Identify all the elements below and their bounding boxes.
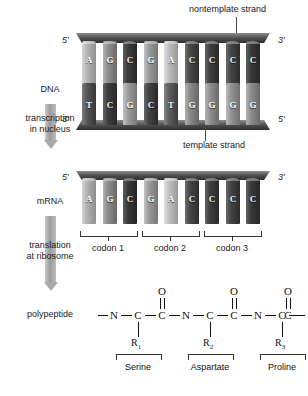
mrna-base-6: C (185, 194, 199, 204)
mrna-base-rod-4: G (144, 178, 158, 224)
mrna-base-rod-1: A (82, 178, 96, 224)
codon-label-2: codon 2 (148, 243, 192, 254)
mrna-base-rod-5: A (164, 178, 178, 224)
mrna-left-prime: 5′ (62, 172, 69, 182)
dna-base-rod-bottom-3: G (123, 83, 137, 125)
stage-label-mrna: mRNA (22, 196, 78, 207)
residue-2-oxygen: O (228, 285, 240, 297)
dna-top-base-1: A (82, 55, 96, 65)
dna-top-base-8: C (226, 55, 240, 65)
translation-label-line1: translation (6, 240, 94, 251)
template-strand-label: template strand (183, 140, 245, 151)
dna-base-rod-top-1: A (82, 41, 96, 87)
codon-bracket-3 (204, 231, 262, 237)
dna-right-bottom-prime: 5′ (278, 114, 285, 124)
residue-2-r-group: R2 (203, 337, 213, 351)
mrna-base-rod-9: C (246, 178, 260, 224)
dna-base-rod-bottom-4: C (144, 83, 158, 125)
dna-base-rod-bottom-6: G (185, 83, 199, 125)
dna-top-base-4: G (144, 55, 158, 65)
nontemplate-strand-label: nontemplate strand (189, 4, 266, 15)
dna-base-rod-top-9: C (246, 41, 260, 87)
mrna-base-1: A (82, 194, 96, 204)
dna-base-rod-bottom-9: G (246, 83, 260, 125)
dna-top-base-5: A (164, 55, 178, 65)
residue-1-ca-co-bond (145, 315, 156, 316)
stage-label-dna: DNA (22, 84, 78, 95)
dna-top-base-6: C (185, 55, 199, 65)
residue-3-oxygen: O (282, 285, 294, 297)
residue-3-nitrogen: N (252, 309, 264, 321)
mrna-base-9: C (246, 194, 260, 204)
residue-1-r-letter: R (131, 337, 138, 348)
dna-base-rod-bottom-5: T (164, 83, 178, 125)
dna-bottom-base-6: G (185, 100, 199, 110)
transcription-label-line1: transcription (6, 113, 94, 124)
dna-bottom-base-4: C (144, 100, 158, 110)
codon-tick-2 (170, 236, 171, 241)
mrna-base-rod-7: C (205, 178, 219, 224)
residue-1-carbonyl-carbon: C (156, 309, 168, 321)
residue-1-n-ca-bond (121, 315, 132, 316)
codon-label-3: codon 3 (210, 243, 254, 254)
residue-3-carbonyl-double-bond-a (286, 298, 287, 309)
dna-base-rod-top-6: C (185, 41, 199, 87)
residue-1-bracket (116, 354, 162, 360)
dna-bottom-base-1: T (82, 100, 96, 110)
dna-base-rod-bottom-7: G (205, 83, 219, 125)
dna-top-base-3: C (123, 55, 137, 65)
codon-bracket-1 (80, 231, 138, 237)
residue-2-alpha-carbon: C (204, 309, 216, 321)
mrna-base-8: C (226, 194, 240, 204)
residue-3-carbonyl-carbon: C (282, 309, 294, 321)
mrna-strand: A G C G A C C C C (76, 171, 270, 227)
residue-3-n-ca-bond (265, 315, 276, 316)
dna-base-rod-top-4: G (144, 41, 158, 87)
dna-top-base-2: G (103, 55, 117, 65)
dna-base-rod-top-3: C (123, 41, 137, 87)
dna-bottom-base-5: T (164, 100, 178, 110)
polypeptide-structure: N C C O R1 Serine N C C O R2 Aspartate N… (96, 283, 308, 396)
residue-1-nitrogen: N (108, 309, 120, 321)
mrna-base-4: G (144, 194, 158, 204)
residue-3-carbonyl-double-bond-b (290, 298, 291, 309)
dna-duplex: A G C G A C C C C T C G C T G G G G (76, 33, 270, 130)
residue-1-r-group: R1 (131, 337, 141, 351)
peptide-bond-2 (241, 315, 252, 316)
codon-tick-1 (108, 236, 109, 241)
residue-2-carbonyl-double-bond-a (232, 298, 233, 309)
mrna-base-rod-6: C (185, 178, 199, 224)
mrna-base-rod-3: C (123, 178, 137, 224)
dna-base-rod-bottom-2: C (103, 83, 117, 125)
dna-bottom-base-9: G (246, 100, 260, 110)
residue-3-amino-acid-name: Proline (248, 362, 308, 372)
chain-end-bond (295, 315, 305, 316)
mrna-right-prime: 3′ (278, 172, 285, 182)
residue-2-r-index: 2 (210, 343, 214, 351)
mrna-base-7: C (205, 194, 219, 204)
residue-2-r-letter: R (203, 337, 210, 348)
mrna-base-rod-2: G (103, 178, 117, 224)
diagram-canvas: nontemplate strand A G C G A C C C C T C… (0, 0, 308, 396)
residue-2-nitrogen: N (180, 309, 192, 321)
mrna-base-3: C (123, 194, 137, 204)
residue-3-r-group: R3 (275, 337, 285, 351)
dna-top-base-9: C (246, 55, 260, 65)
dna-bottom-base-2: C (103, 100, 117, 110)
residue-3-bracket (260, 354, 306, 360)
dna-base-rod-top-2: G (103, 41, 117, 87)
residue-2-bracket (188, 354, 234, 360)
peptide-bond-1 (169, 315, 180, 316)
dna-base-rod-top-5: A (164, 41, 178, 87)
mrna-base-rod-8: C (226, 178, 240, 224)
dna-base-rod-bottom-8: G (226, 83, 240, 125)
dna-bottom-base-8: G (226, 100, 240, 110)
mrna-base-2: G (103, 194, 117, 204)
dna-base-rod-top-7: C (205, 41, 219, 87)
dna-bottom-base-7: G (205, 100, 219, 110)
residue-2-ca-co-bond (217, 315, 228, 316)
translation-label-line2: at ribosome (6, 251, 94, 262)
residue-2-amino-acid-name: Aspartate (176, 362, 244, 372)
residue-1-r-index: 1 (138, 343, 142, 351)
residue-2-carbonyl-carbon: C (228, 309, 240, 321)
